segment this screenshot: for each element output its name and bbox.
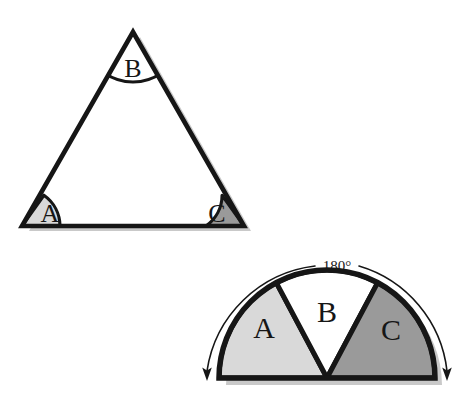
measure-label: 180° bbox=[323, 258, 352, 274]
semicircle-figure: A B C 180° bbox=[202, 258, 452, 385]
sector-label-a: A bbox=[253, 311, 275, 344]
sector-label-b: B bbox=[317, 295, 337, 328]
triangle-angle-label-b: B bbox=[124, 54, 141, 83]
sector-label-c: C bbox=[381, 313, 401, 346]
triangle-figure: A B C bbox=[22, 32, 251, 231]
geometry-figure: A B C A B C bbox=[0, 0, 463, 400]
triangle-angle-label-a: A bbox=[41, 199, 60, 228]
figure-canvas: A B C A B C bbox=[0, 0, 463, 400]
triangle-angle-label-c: C bbox=[208, 199, 225, 228]
